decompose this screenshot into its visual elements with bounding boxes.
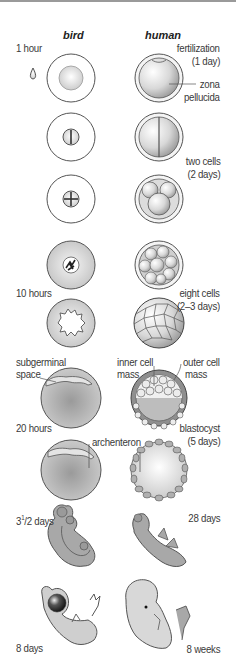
label-10-hours: 10 hours [16,287,52,299]
human-stage-blastocyst [131,364,187,429]
label-3-5-days: 31/2 days [16,512,54,527]
label-fertilization: fertilization [177,42,220,54]
label-28-days: 28 days [188,512,220,524]
label-outer-mass: mass [185,368,207,380]
label-3-5-days-rest: /2 days [24,515,53,527]
bird-embryo-8-days [42,587,100,645]
label-archenteron: archenteron [92,436,141,448]
label-inner-mass: mass [117,368,139,380]
bird-stage-20-hours [40,368,101,428]
label-subgerminal: subgerminal [16,356,66,368]
column-header-bird: bird [63,29,84,41]
bird-stage-blastoderm [47,299,95,347]
label-space: space [16,368,41,380]
label-2-days: (2 days) [187,168,220,180]
human-stage-two-cells [135,113,183,161]
label-20-hours: 20 hours [16,422,52,434]
label-zona: zona [200,78,220,90]
human-embryo-8-weeks [126,580,190,649]
human-stage-gastrula [130,439,188,501]
bird-stage-four-cell [47,175,95,223]
human-embryo-28-days [133,514,186,567]
label-1-hour: 1 hour [16,42,42,54]
bird-stage-archenteron [41,440,101,500]
label-2-3-days: (2–3 days) [177,300,220,312]
column-header-human: human [145,29,181,41]
label-inner-cell: inner cell [117,356,153,368]
label-5-days: (5 days) [187,435,220,447]
label-8-days: 8 days [16,642,43,654]
label-outer-cell: outer cell [183,356,220,368]
label-eight-cells: eight cells [180,287,220,299]
human-stage-eight-cells [135,241,183,289]
label-1-day: (1 day) [192,55,220,67]
human-stage-four-cells [135,175,183,223]
label-8-weeks: 8 weeks [186,643,220,655]
bird-stage-1-hour [30,54,95,102]
label-pellucida: pellucida [184,91,220,103]
bird-stage-two-cell [47,113,95,161]
label-two-cells: two cells [185,155,220,167]
bird-stage-multicell [47,241,95,289]
bird-embryo-3-5-days [48,505,95,566]
label-blastocyst: blastocyst [180,422,220,434]
